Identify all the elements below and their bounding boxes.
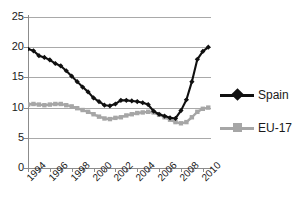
- data-point-marker: [189, 79, 194, 84]
- data-point-marker: [113, 116, 117, 120]
- series-paths: [28, 17, 211, 168]
- data-point-marker: [70, 104, 74, 108]
- data-point-marker: [206, 105, 210, 109]
- series-line: [28, 47, 208, 118]
- data-point-marker: [190, 115, 194, 119]
- legend-item-spain[interactable]: Spain: [220, 85, 300, 107]
- data-point-marker: [141, 110, 145, 114]
- data-point-marker: [140, 100, 145, 105]
- data-point-marker: [91, 112, 95, 116]
- data-point-marker: [37, 102, 41, 106]
- data-point-marker: [124, 113, 128, 117]
- data-point-marker: [135, 111, 139, 115]
- data-point-marker: [102, 116, 106, 120]
- square-marker-icon: [233, 123, 242, 132]
- data-point-marker: [42, 103, 46, 107]
- data-point-marker: [31, 102, 35, 106]
- data-point-marker: [184, 120, 188, 124]
- data-point-marker: [130, 112, 134, 116]
- data-point-marker: [75, 106, 79, 110]
- data-point-marker: [53, 102, 57, 106]
- data-point-marker: [179, 121, 183, 125]
- data-point-marker: [86, 110, 90, 114]
- data-point-marker: [135, 99, 140, 104]
- plot-area: [28, 17, 211, 168]
- legend-label: Spain: [258, 88, 289, 102]
- legend: SpainEU-17: [220, 85, 300, 151]
- data-point-marker: [119, 115, 123, 119]
- data-point-marker: [146, 110, 150, 114]
- data-point-marker: [28, 102, 30, 106]
- series-line: [28, 104, 208, 123]
- unemployment-rate-line-chart: 0510152025 19941996199820002002200420062…: [0, 0, 303, 214]
- data-point-marker: [80, 108, 84, 112]
- data-point-marker: [64, 103, 68, 107]
- series-spain: [28, 45, 211, 121]
- legend-label: EU-17: [258, 121, 292, 135]
- data-point-marker: [108, 117, 112, 121]
- data-point-marker: [48, 102, 52, 106]
- data-point-marker: [124, 98, 129, 103]
- data-point-marker: [59, 102, 63, 106]
- data-point-marker: [195, 110, 199, 114]
- data-point-marker: [97, 114, 101, 118]
- data-point-marker: [129, 98, 134, 103]
- legend-item-eu-17[interactable]: EU-17: [220, 118, 300, 140]
- data-point-marker: [201, 107, 205, 111]
- diamond-marker-icon: [231, 88, 244, 101]
- data-point-marker: [107, 103, 112, 108]
